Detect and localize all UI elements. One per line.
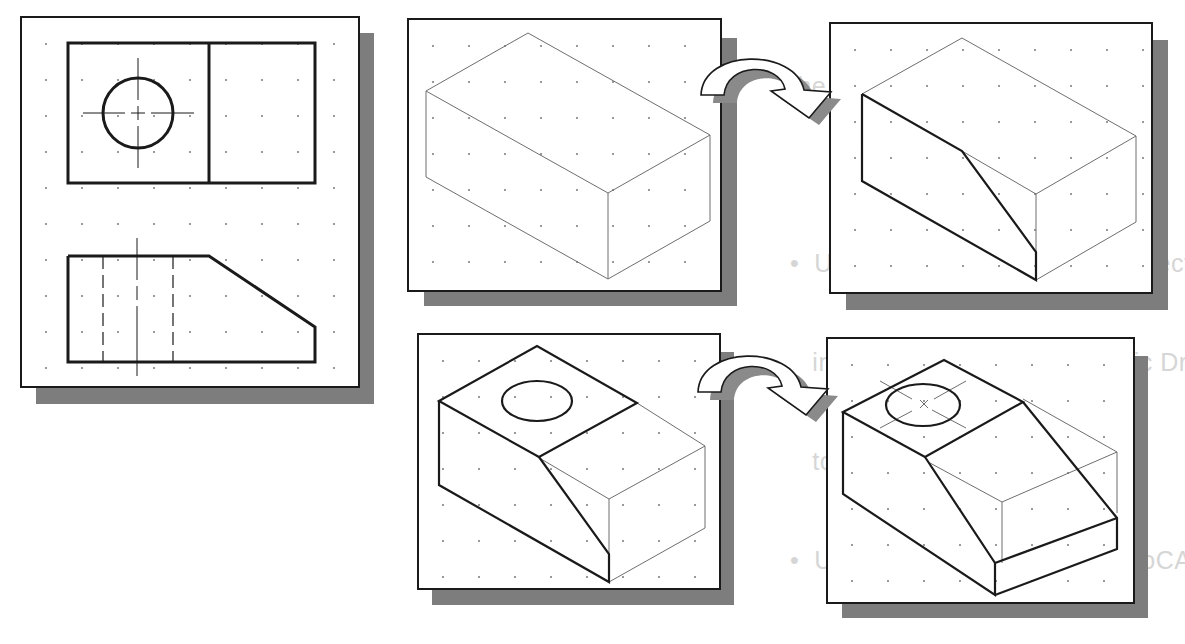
multiview-panel (20, 16, 360, 388)
iso-final-panel (826, 337, 1135, 604)
iso-box-drawing (409, 20, 724, 294)
hidden-lines (103, 256, 173, 362)
iso-hole-ellipse (502, 381, 572, 421)
iso-cut-drawing (831, 24, 1155, 296)
ellipse-centerlines (880, 381, 966, 428)
iso-cut-panel (829, 22, 1153, 294)
iso-hole-drawing (419, 335, 723, 592)
iso-box-panel (407, 18, 722, 292)
curved-arrow-icon (696, 38, 856, 128)
centerline-marks (83, 58, 194, 168)
iso-final-drawing (828, 339, 1137, 606)
multiview-drawing (22, 18, 362, 390)
curved-arrow-icon (693, 335, 853, 425)
iso-hole-panel (417, 333, 721, 590)
